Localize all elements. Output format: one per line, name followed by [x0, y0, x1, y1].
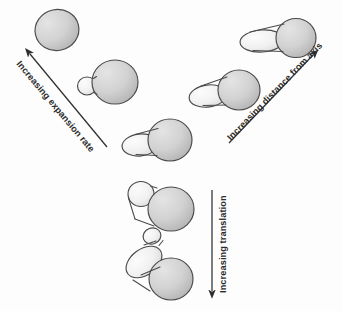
morphology-diagram: Increasing expansion rate Increasing dis…: [0, 0, 343, 311]
mother-compartment: [31, 5, 83, 54]
cell-oval-bud-center: [121, 119, 192, 161]
mother-compartment: [92, 60, 138, 104]
cell-offset-round-bud: [128, 182, 194, 232]
axis-expansion-rate: Increasing expansion rate: [14, 54, 107, 154]
cell-unbudded-round: [31, 5, 83, 54]
mother-compartment: [148, 187, 194, 231]
mother-compartment: [218, 70, 260, 110]
bud-neck: [133, 280, 150, 291]
cell-long-horizontal-bud: [239, 19, 316, 58]
axis-label-expansion-rate: Increasing expansion rate: [14, 59, 96, 154]
mother-compartment: [148, 119, 192, 161]
cell-chain-three-compartments: [120, 225, 193, 300]
bud-neck: [159, 241, 163, 246]
diagram-canvas: Increasing expansion rate Increasing dis…: [0, 0, 343, 311]
axis-translation: Increasing translation: [212, 190, 228, 293]
cell-elongated-bud: [188, 70, 260, 110]
bud-neck: [203, 105, 226, 106]
mother-compartment: [149, 258, 193, 300]
axis-arrow-line: [30, 54, 107, 147]
cell-small-round-bud: [78, 60, 139, 104]
axis-label-translation: Increasing translation: [218, 195, 228, 293]
